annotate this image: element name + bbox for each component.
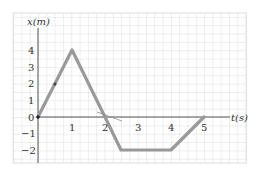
y-tick-3: 3 <box>28 62 34 73</box>
chart: x(m) t(s) 4 3 2 1 0 −1 −2 1 2 3 4 5 <box>0 0 256 178</box>
y-tick-neg2: −2 <box>21 145 36 156</box>
y-tick-1: 1 <box>28 95 34 106</box>
x-axis-label: t(s) <box>231 112 248 123</box>
y-tick-neg1: −1 <box>21 128 36 139</box>
x-tick-2: 2 <box>102 122 108 133</box>
grid-area <box>13 13 246 163</box>
x-tick-3: 3 <box>135 122 141 133</box>
point-marker <box>54 83 57 86</box>
y-tick-2: 2 <box>28 78 34 89</box>
origin-dot <box>36 115 40 119</box>
y-tick-0: 0 <box>28 112 34 123</box>
x-tick-4: 4 <box>168 122 174 133</box>
x-tick-5: 5 <box>201 122 207 133</box>
x-tick-1: 1 <box>69 122 75 133</box>
y-axis-label: x(m) <box>27 16 50 27</box>
y-tick-4: 4 <box>28 45 34 56</box>
